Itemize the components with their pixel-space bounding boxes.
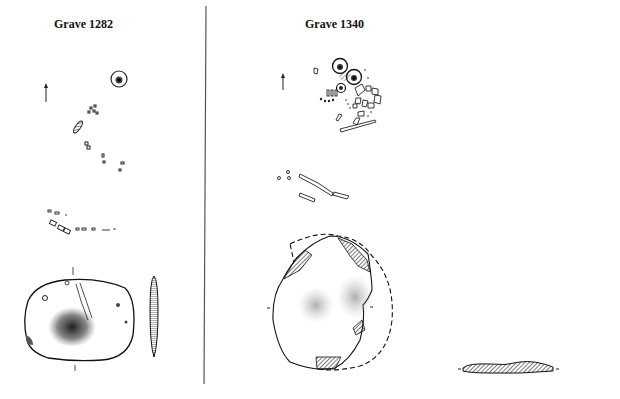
panel-divider — [204, 6, 206, 384]
north-arrow-icon — [281, 73, 285, 90]
north-arrow-icon — [44, 83, 48, 102]
figure-drawing — [0, 0, 620, 399]
grave-1340-plan — [267, 59, 559, 374]
grave-1282-plan — [25, 71, 158, 371]
